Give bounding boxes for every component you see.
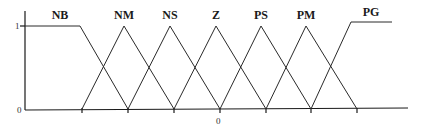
- set-label-ns: NS: [162, 8, 178, 22]
- membership-ns: [128, 26, 220, 109]
- y-label-zero: 0: [17, 105, 22, 115]
- set-labels: NBNMNSZPSPMPG: [52, 5, 380, 22]
- y-label-one: 1: [15, 21, 20, 31]
- set-label-ps: PS: [254, 8, 268, 22]
- membership-functions: [25, 22, 392, 109]
- membership-ps: [220, 26, 311, 109]
- x-label-zero: 0: [216, 116, 221, 126]
- set-label-pm: PM: [297, 8, 316, 22]
- membership-pg: [311, 22, 392, 109]
- membership-nm: [82, 26, 174, 109]
- fuzzy-membership-diagram: 1 0 0 NBNMNSZPSPMPG: [0, 0, 426, 129]
- set-label-nb: NB: [52, 8, 69, 22]
- set-label-nm: NM: [114, 8, 134, 22]
- set-label-z: Z: [212, 8, 220, 22]
- membership-nb: [25, 26, 128, 109]
- set-label-pg: PG: [363, 5, 380, 19]
- membership-z: [174, 26, 266, 109]
